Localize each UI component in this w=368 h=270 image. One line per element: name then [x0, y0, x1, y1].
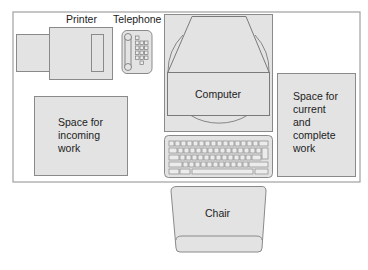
telephone-icon: [122, 31, 152, 74]
chair-label: Chair: [205, 207, 230, 220]
computer-icon: [165, 15, 273, 132]
computer-label: Computer: [195, 88, 241, 101]
telephone-label: Telephone: [113, 13, 161, 26]
printer-label: Printer: [66, 13, 97, 26]
printer-icon: [17, 28, 113, 80]
incoming-work-label: Space for incoming work: [58, 116, 103, 155]
current-work-label: Space for current and complete work: [293, 90, 338, 155]
keyboard-icon: [165, 136, 273, 178]
